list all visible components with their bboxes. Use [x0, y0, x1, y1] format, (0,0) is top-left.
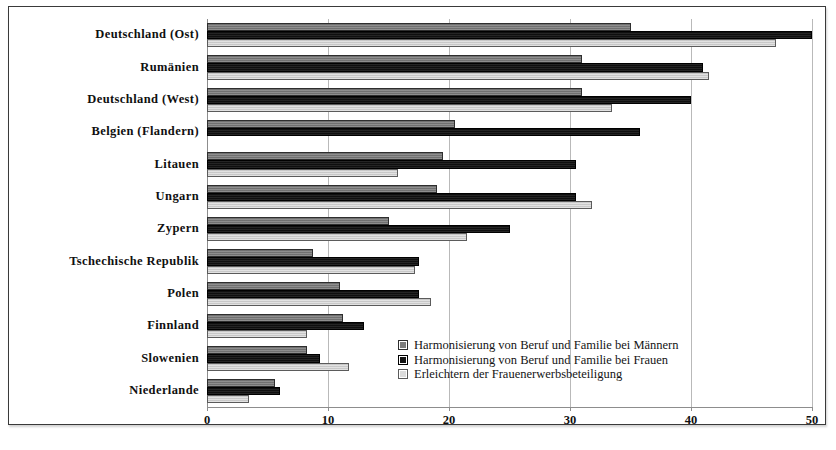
category-label: Deutschland (Ost) — [17, 27, 207, 42]
category-label: Zypern — [17, 221, 207, 236]
x-tick-mark — [812, 407, 813, 411]
bar — [207, 169, 398, 177]
category-label: Deutschland (West) — [17, 92, 207, 107]
category-label: Slowenien — [17, 351, 207, 366]
x-tick-label: 40 — [685, 413, 698, 428]
bar — [207, 31, 812, 39]
legend-label: Erleichtern der Frauenerwerbsbeteiligung — [414, 367, 622, 382]
bar — [207, 290, 419, 298]
bar-group — [207, 213, 812, 245]
bar — [207, 233, 467, 241]
bar — [207, 128, 640, 136]
category-label: Tschechische Republik — [17, 254, 207, 269]
category-label: Polen — [17, 286, 207, 301]
bar-group — [207, 245, 812, 277]
bar-group — [207, 51, 812, 83]
bar — [207, 298, 431, 306]
bar-group — [207, 181, 812, 213]
bar — [207, 314, 343, 322]
bar — [207, 225, 510, 233]
bar — [207, 23, 631, 31]
bar — [207, 160, 576, 168]
bar-group — [207, 116, 812, 148]
legend-item: Harmonisierung von Beruf und Familie bei… — [398, 353, 728, 368]
legend-swatch-icon — [398, 340, 408, 350]
bar — [207, 282, 340, 290]
bar — [207, 379, 275, 387]
chart-legend: Harmonisierung von Beruf und Familie bei… — [398, 338, 728, 382]
bar — [207, 152, 443, 160]
bar — [207, 104, 612, 112]
bar — [207, 88, 582, 96]
x-tick-label: 30 — [564, 413, 577, 428]
bar — [207, 395, 249, 403]
category-label: Niederlande — [17, 383, 207, 398]
bar-group — [207, 84, 812, 116]
x-tick-mark — [449, 407, 450, 411]
legend-item: Harmonisierung von Beruf und Familie bei… — [398, 338, 728, 353]
bar — [207, 322, 364, 330]
bar-group — [207, 19, 812, 51]
legend-label: Harmonisierung von Beruf und Familie bei… — [414, 353, 668, 368]
x-tick-label: 50 — [806, 413, 819, 428]
x-tick-label: 10 — [322, 413, 335, 428]
bar — [207, 120, 455, 128]
bar-group — [207, 148, 812, 180]
x-tick-label: 20 — [443, 413, 456, 428]
bar — [207, 55, 582, 63]
bar — [207, 63, 703, 71]
category-label: Ungarn — [17, 189, 207, 204]
gridline — [812, 19, 813, 407]
legend-swatch-icon — [398, 355, 408, 365]
bar — [207, 257, 419, 265]
bar — [207, 330, 307, 338]
category-label: Finnland — [17, 318, 207, 333]
x-axis-line — [207, 407, 813, 408]
x-tick-mark — [691, 407, 692, 411]
bar — [207, 217, 389, 225]
bar-group — [207, 278, 812, 310]
legend-swatch-icon — [398, 369, 408, 379]
x-tick-mark — [328, 407, 329, 411]
bar — [207, 354, 320, 362]
category-label: Rumänien — [17, 60, 207, 75]
x-tick-mark — [570, 407, 571, 411]
legend-item: Erleichtern der Frauenerwerbsbeteiligung — [398, 367, 728, 382]
category-axis-labels: Deutschland (Ost)RumänienDeutschland (We… — [9, 19, 207, 407]
bar — [207, 72, 709, 80]
bar — [207, 193, 576, 201]
x-axis-tick-labels: 01020304050 — [207, 411, 812, 437]
x-tick-label: 0 — [204, 413, 210, 428]
chart-frame: Deutschland (Ost)RumänienDeutschland (We… — [8, 6, 826, 425]
legend-label: Harmonisierung von Beruf und Familie bei… — [414, 338, 679, 353]
x-tick-mark — [207, 407, 208, 411]
bar — [207, 346, 307, 354]
bar — [207, 201, 592, 209]
bar — [207, 39, 776, 47]
bar — [207, 266, 415, 274]
bar — [207, 96, 691, 104]
bar — [207, 249, 313, 257]
bar — [207, 185, 437, 193]
category-label: Belgien (Flandern) — [17, 124, 207, 139]
bar — [207, 387, 280, 395]
category-label: Litauen — [17, 157, 207, 172]
bar — [207, 363, 349, 371]
